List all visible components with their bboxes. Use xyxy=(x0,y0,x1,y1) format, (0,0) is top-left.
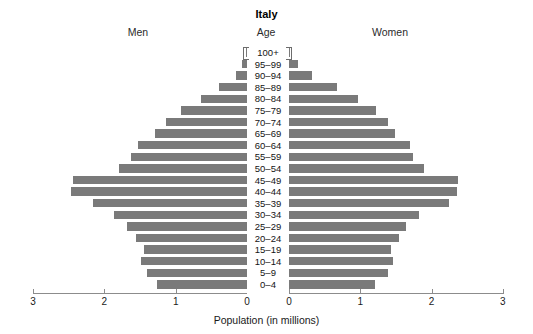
age-label-40–44: 40–44 xyxy=(247,186,289,198)
age-label-55–59: 55–59 xyxy=(247,151,289,163)
bar-women-45–49 xyxy=(289,176,458,184)
bracket-left-icon xyxy=(243,47,249,60)
age-label-10–14: 10–14 xyxy=(247,256,289,268)
bar-men-70–74 xyxy=(166,118,247,126)
x-tick-label-left-1: 1 xyxy=(166,296,186,307)
age-label-95–99: 95–99 xyxy=(247,59,289,71)
bar-women-15–19 xyxy=(289,245,391,253)
bar-men-35–39 xyxy=(93,199,247,207)
bar-women-85–89 xyxy=(289,83,337,91)
bar-women-0–4 xyxy=(289,280,375,288)
age-label-0–4: 0–4 xyxy=(247,279,289,291)
bar-women-25–29 xyxy=(289,222,406,230)
bar-women-90–94 xyxy=(289,71,312,79)
age-label-75–79: 75–79 xyxy=(247,105,289,117)
bar-women-50–54 xyxy=(289,164,424,172)
bar-men-50–54 xyxy=(119,164,247,172)
age-label-45–49: 45–49 xyxy=(247,175,289,187)
age-label-5–9: 5–9 xyxy=(247,267,289,279)
x-axis-right xyxy=(289,293,504,294)
bar-women-75–79 xyxy=(289,106,376,114)
bracket-right-icon xyxy=(286,47,292,60)
age-label-15–19: 15–19 xyxy=(247,244,289,256)
age-label-100+: 100+ xyxy=(247,47,289,59)
age-label-30–34: 30–34 xyxy=(247,209,289,221)
x-tick-right-0 xyxy=(289,289,290,294)
x-tick-label-left-2: 2 xyxy=(94,296,114,307)
bar-men-85–89 xyxy=(219,83,247,91)
bar-women-55–59 xyxy=(289,153,413,161)
bar-women-80–84 xyxy=(289,95,358,103)
bar-women-35–39 xyxy=(289,199,449,207)
bar-men-10–14 xyxy=(141,257,247,265)
x-tick-label-right-3: 3 xyxy=(493,296,513,307)
bar-women-70–74 xyxy=(289,118,388,126)
population-pyramid-chart: Italy Men Age Women 100+95–9990–9485–898… xyxy=(0,0,533,334)
bar-men-75–79 xyxy=(181,106,247,114)
bar-men-60–64 xyxy=(138,141,247,149)
bar-men-30–34 xyxy=(114,211,247,219)
age-label-65–69: 65–69 xyxy=(247,128,289,140)
bar-men-25–29 xyxy=(127,222,247,230)
age-label-80–84: 80–84 xyxy=(247,93,289,105)
age-label-90–94: 90–94 xyxy=(247,70,289,82)
x-tick-label-left-3: 3 xyxy=(23,296,43,307)
x-tick-left-3 xyxy=(33,289,34,294)
x-tick-label-left-0: 0 xyxy=(237,296,257,307)
bar-men-45–49 xyxy=(73,176,247,184)
bar-men-80–84 xyxy=(201,95,247,103)
x-tick-label-right-1: 1 xyxy=(350,296,370,307)
bar-men-65–69 xyxy=(155,129,247,137)
x-tick-left-2 xyxy=(104,289,105,294)
bar-men-90–94 xyxy=(236,71,247,79)
bar-women-40–44 xyxy=(289,187,457,195)
bar-women-95–99 xyxy=(289,60,298,68)
bar-men-20–24 xyxy=(136,234,247,242)
bar-men-5–9 xyxy=(147,269,247,277)
bar-women-20–24 xyxy=(289,234,399,242)
bar-women-65–69 xyxy=(289,129,395,137)
age-label-column: 100+95–9990–9485–8980–8475–7970–7465–696… xyxy=(247,47,289,296)
bar-men-55–59 xyxy=(131,153,247,161)
age-label-50–54: 50–54 xyxy=(247,163,289,175)
bar-women-10–14 xyxy=(289,257,393,265)
x-tick-label-right-2: 2 xyxy=(422,296,442,307)
age-label-85–89: 85–89 xyxy=(247,82,289,94)
bar-women-60–64 xyxy=(289,141,410,149)
bar-men-40–44 xyxy=(71,187,247,195)
x-tick-right-1 xyxy=(360,289,361,294)
age-label-25–29: 25–29 xyxy=(247,221,289,233)
x-tick-left-1 xyxy=(176,289,177,294)
bar-women-30–34 xyxy=(289,211,419,219)
x-axis-left xyxy=(33,293,248,294)
age-label-60–64: 60–64 xyxy=(247,140,289,152)
x-axis-label: Population (in millions) xyxy=(0,314,533,326)
x-tick-right-3 xyxy=(503,289,504,294)
age-label-70–74: 70–74 xyxy=(247,117,289,129)
bar-men-15–19 xyxy=(144,245,247,253)
bar-women-5–9 xyxy=(289,269,388,277)
age-label-35–39: 35–39 xyxy=(247,198,289,210)
x-tick-right-2 xyxy=(432,289,433,294)
bar-men-0–4 xyxy=(157,280,247,288)
age-label-20–24: 20–24 xyxy=(247,233,289,245)
x-tick-label-right-0: 0 xyxy=(279,296,299,307)
